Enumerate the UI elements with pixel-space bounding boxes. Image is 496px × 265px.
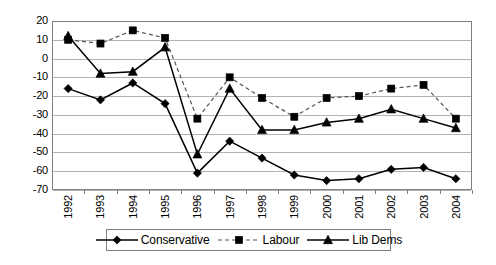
legend-item-lib-dems[interactable]: Lib Dems — [306, 233, 402, 247]
x-tick-mark — [375, 190, 376, 194]
legend-swatch-triangle-icon — [306, 233, 350, 247]
legend-label: Conservative — [141, 234, 210, 246]
x-tick-mark — [440, 190, 441, 194]
x-tick-label: 1997 — [223, 195, 237, 219]
legend-swatch-diamond-icon — [95, 233, 139, 247]
x-tick-label: 1992 — [61, 195, 75, 219]
gridline--60 — [53, 171, 471, 172]
legend-item-labour[interactable]: Labour — [217, 233, 300, 247]
gridline--20 — [53, 96, 471, 97]
x-tick-mark — [117, 190, 118, 194]
chart-container: 20100-10-20-30-40-50-60-70 1992199319941… — [0, 0, 496, 265]
y-tick-label: 0 — [8, 53, 48, 64]
x-tick-mark — [149, 190, 150, 194]
x-tick-mark — [246, 190, 247, 194]
x-tick-label: 2004 — [449, 195, 463, 219]
y-tick-label: -40 — [8, 128, 48, 139]
plot-area — [52, 21, 472, 190]
gridline--40 — [53, 134, 471, 135]
gridline-0 — [53, 59, 471, 60]
x-tick-mark — [84, 190, 85, 194]
x-tick-label: 2000 — [320, 195, 334, 219]
y-tick-label: 10 — [8, 34, 48, 45]
x-tick-mark — [214, 190, 215, 194]
legend-swatch-square-icon — [217, 233, 261, 247]
x-tick-mark — [310, 190, 311, 194]
y-tick-label: -70 — [8, 184, 48, 195]
gridline--10 — [53, 77, 471, 78]
x-tick-label: 2002 — [384, 195, 398, 219]
gridline--30 — [53, 115, 471, 116]
legend-label: Lib Dems — [352, 234, 402, 246]
x-tick-label: 1993 — [93, 195, 107, 219]
x-tick-label: 2003 — [417, 195, 431, 219]
x-tick-label: 2001 — [352, 195, 366, 219]
x-tick-mark — [472, 190, 473, 194]
x-tick-label: 1998 — [255, 195, 269, 219]
gridline-20 — [53, 21, 471, 22]
y-tick-label: -10 — [8, 71, 48, 82]
x-tick-mark — [278, 190, 279, 194]
legend-label: Labour — [263, 234, 300, 246]
x-tick-label: 1995 — [158, 195, 172, 219]
y-tick-label: 20 — [8, 15, 48, 26]
chart-legend: ConservativeLabourLib Dems — [106, 229, 391, 251]
x-tick-label: 1996 — [190, 195, 204, 219]
y-tick-label: -30 — [8, 109, 48, 120]
gridline-10 — [53, 40, 471, 41]
legend-item-conservative[interactable]: Conservative — [95, 233, 210, 247]
x-tick-label: 1994 — [126, 195, 140, 219]
y-tick-label: -20 — [8, 90, 48, 101]
x-tick-mark — [407, 190, 408, 194]
y-tick-label: -60 — [8, 165, 48, 176]
y-tick-label: -50 — [8, 146, 48, 157]
gridline--50 — [53, 152, 471, 153]
x-tick-mark — [181, 190, 182, 194]
x-tick-mark — [343, 190, 344, 194]
x-tick-label: 1999 — [287, 195, 301, 219]
